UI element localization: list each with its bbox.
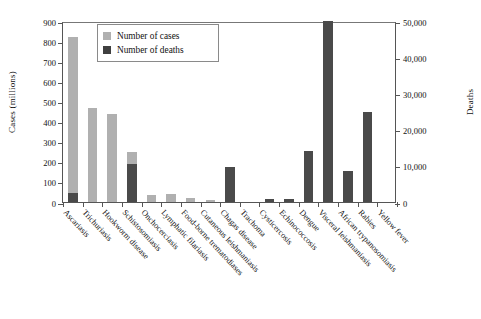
x-axis-tick bbox=[279, 202, 280, 207]
y-axis-left-tick-label: 100 bbox=[43, 179, 56, 188]
x-axis-tick bbox=[220, 202, 221, 207]
bar-deaths bbox=[265, 199, 275, 202]
y-axis-left-tick bbox=[58, 183, 63, 184]
x-axis-tick bbox=[142, 202, 143, 207]
y-axis-left-tick-label: 400 bbox=[43, 119, 56, 128]
y-axis-left-tick bbox=[58, 163, 63, 164]
x-axis-tick bbox=[181, 202, 182, 207]
x-axis-tick bbox=[122, 202, 123, 207]
x-axis-label: Yellow fever bbox=[376, 208, 412, 245]
x-axis-tick bbox=[318, 202, 319, 207]
y-axis-right-tick bbox=[395, 167, 400, 168]
x-axis-tick bbox=[259, 202, 260, 207]
bar-deaths bbox=[343, 171, 353, 202]
legend-item: Number of deaths bbox=[103, 43, 212, 57]
y-axis-right-tick-label: 30,000 bbox=[403, 91, 426, 100]
y-axis-left-tick bbox=[58, 43, 63, 44]
legend-swatch-icon bbox=[103, 32, 111, 40]
bar-deaths bbox=[363, 112, 373, 203]
bar-cases bbox=[206, 200, 216, 202]
y-axis-left-tick-label: 0 bbox=[52, 200, 56, 209]
bar-cases bbox=[68, 37, 78, 202]
x-axis-tick bbox=[102, 202, 103, 207]
y-axis-left-tick bbox=[58, 63, 63, 64]
y-axis-right-tick-label: 50,000 bbox=[403, 19, 426, 28]
y-axis-right-tick-label: 10,000 bbox=[403, 163, 426, 172]
bar-deaths bbox=[304, 151, 314, 202]
bar-deaths bbox=[127, 164, 137, 202]
y-axis-left-tick bbox=[58, 123, 63, 124]
legend-item: Number of cases bbox=[103, 29, 212, 43]
bar-cases bbox=[166, 194, 176, 202]
y-axis-right-title: Deaths bbox=[465, 57, 475, 147]
y-axis-left-tick-label: 600 bbox=[43, 79, 56, 88]
x-axis-tick bbox=[83, 202, 84, 207]
y-axis-left-tick bbox=[58, 23, 63, 24]
x-axis-tick bbox=[338, 202, 339, 207]
x-axis-tick bbox=[201, 202, 202, 207]
legend-label: Number of cases bbox=[117, 31, 179, 41]
y-axis-left-tick-label: 300 bbox=[43, 139, 56, 148]
x-axis-tick bbox=[377, 202, 378, 207]
y-axis-right-tick-label: 0 bbox=[403, 200, 407, 209]
x-axis-tick bbox=[161, 202, 162, 207]
y-axis-left-title: Cases (millions) bbox=[7, 57, 17, 147]
y-axis-left-tick-label: 700 bbox=[43, 59, 56, 68]
y-axis-left-tick bbox=[58, 83, 63, 84]
bar-deaths bbox=[225, 167, 235, 202]
bar-deaths bbox=[68, 193, 78, 202]
y-axis-left-tick-label: 900 bbox=[43, 19, 56, 28]
chart-container: Cases (millions) Deaths 0100200300400500… bbox=[0, 0, 481, 319]
bar-cases bbox=[147, 195, 157, 202]
y-axis-right-tick bbox=[395, 95, 400, 96]
legend-label: Number of deaths bbox=[117, 45, 184, 55]
x-axis-tick bbox=[299, 202, 300, 207]
x-axis-tick bbox=[397, 202, 398, 207]
y-axis-left-tick bbox=[58, 143, 63, 144]
y-axis-left-tick-label: 500 bbox=[43, 99, 56, 108]
x-axis-tick bbox=[63, 202, 64, 207]
y-axis-left-tick bbox=[58, 103, 63, 104]
chart-legend: Number of casesNumber of deaths bbox=[97, 24, 219, 62]
x-axis-tick bbox=[240, 202, 241, 207]
bar-deaths bbox=[323, 21, 333, 202]
legend-swatch-icon bbox=[103, 46, 111, 54]
y-axis-left-tick-label: 800 bbox=[43, 39, 56, 48]
y-axis-right-tick-label: 20,000 bbox=[403, 127, 426, 136]
y-axis-right-tick bbox=[395, 131, 400, 132]
y-axis-right-tick bbox=[395, 23, 400, 24]
y-axis-left-tick-label: 200 bbox=[43, 159, 56, 168]
y-axis-right-tick bbox=[395, 59, 400, 60]
bar-cases bbox=[107, 114, 117, 202]
bar-deaths bbox=[284, 199, 294, 202]
bar-cases bbox=[186, 198, 196, 202]
y-axis-right-tick-label: 40,000 bbox=[403, 55, 426, 64]
bar-cases bbox=[88, 108, 98, 202]
x-axis-tick bbox=[358, 202, 359, 207]
